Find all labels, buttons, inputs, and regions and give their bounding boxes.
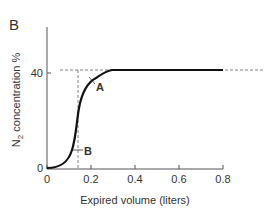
x-axis-label: Expired volume (liters) xyxy=(80,194,189,206)
x-ticks xyxy=(47,73,223,169)
chart: B 0 0.2 0.4 0.6 0.8 0 40 Expired volume … xyxy=(0,0,271,215)
svg-text:0.6: 0.6 xyxy=(171,173,186,185)
svg-text:0.4: 0.4 xyxy=(127,173,142,185)
annotation-a: A xyxy=(96,81,104,93)
x-tick-labels: 0 0.2 0.4 0.6 0.8 xyxy=(44,173,231,185)
annotation-b: B xyxy=(84,145,92,157)
n2-curve xyxy=(47,70,223,168)
svg-text:0: 0 xyxy=(37,162,43,174)
panel-label: B xyxy=(9,16,19,33)
y-axis-label: N2 concentration % xyxy=(10,53,25,148)
y-tick-labels: 0 40 xyxy=(31,67,43,174)
svg-text:40: 40 xyxy=(31,67,43,79)
svg-text:0.2: 0.2 xyxy=(83,173,98,185)
svg-text:0.8: 0.8 xyxy=(215,173,230,185)
svg-text:0: 0 xyxy=(44,173,50,185)
